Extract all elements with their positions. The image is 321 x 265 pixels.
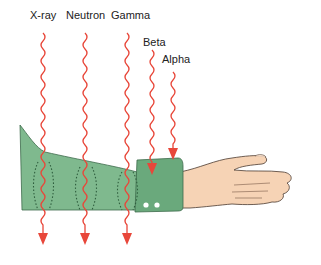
cuff-button [143, 202, 148, 207]
arrow-down-icon [38, 233, 48, 245]
label-gamma: Gamma [111, 9, 150, 21]
arrow-down-icon [80, 233, 90, 245]
hand-illustration [180, 155, 291, 208]
radiation-penetration-diagram: X-ray Neutron Gamma Beta Alpha [0, 0, 321, 265]
label-neutron: Neutron [66, 9, 105, 21]
label-beta: Beta [143, 36, 166, 48]
label-xray: X-ray [30, 9, 56, 21]
label-alpha: Alpha [162, 53, 190, 65]
alpha-wave [171, 72, 175, 150]
cuff-button [154, 202, 159, 207]
beta-wave [150, 50, 154, 167]
arrow-down-icon [122, 233, 132, 245]
